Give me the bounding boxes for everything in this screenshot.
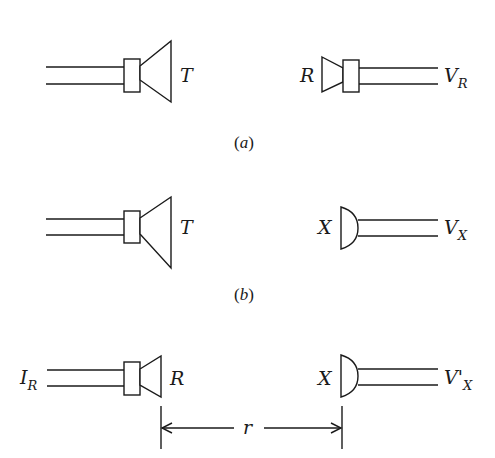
panel-b: T X VX (b) (46, 197, 468, 304)
caption-b: (b) (234, 285, 254, 304)
reciprocity-calibration-diagram: T R VR (a) T X VX (b) (0, 0, 495, 458)
microphone-x-b: X VX (316, 207, 468, 249)
receiver-r-a: R VR (299, 57, 468, 92)
label-t: T (180, 216, 194, 238)
reciprocal-transducer-r: IR R (19, 356, 184, 397)
driver-box (343, 60, 359, 92)
horn-icon (140, 356, 161, 397)
transmitter-t-a: T (46, 41, 194, 102)
horn-icon (322, 57, 343, 92)
output-v-prime-x: V'X (444, 366, 473, 393)
caption-a: (a) (234, 133, 254, 152)
transmitter-t-b: T (46, 197, 194, 268)
output-v-x: VX (444, 216, 468, 243)
driver-box (124, 211, 140, 243)
label-r: R (169, 367, 184, 389)
label-x: X (316, 216, 333, 238)
input-i-r: IR (19, 366, 38, 393)
label-t: T (180, 64, 194, 86)
distance-dimension: r (161, 406, 342, 449)
output-v-r: VR (444, 64, 468, 91)
label-x: X (316, 367, 333, 389)
driver-box (124, 59, 140, 92)
horn-icon (140, 197, 171, 268)
panel-c: IR R X V'X r (19, 355, 473, 449)
microphone-dome-icon (341, 207, 358, 249)
panel-a: T R VR (a) (46, 41, 468, 152)
distance-label-r: r (243, 416, 254, 438)
microphone-x-c: X V'X (316, 355, 473, 397)
driver-box (124, 362, 140, 395)
horn-icon (140, 41, 171, 102)
microphone-dome-icon (341, 355, 358, 397)
label-r: R (299, 64, 314, 86)
